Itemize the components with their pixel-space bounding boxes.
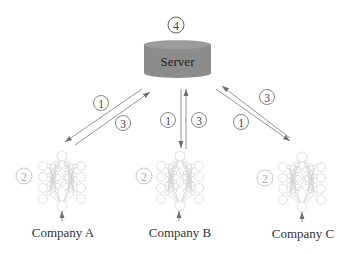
link-company-c: 3 1 xyxy=(216,86,290,141)
company-c: 2 Company C xyxy=(257,152,334,241)
neural-network-icon xyxy=(279,152,326,212)
step-badge-local-train-b: 2 xyxy=(136,168,152,184)
company-label: Company C xyxy=(272,226,334,241)
svg-text:1: 1 xyxy=(165,115,171,127)
server-database-icon: Server xyxy=(144,41,211,79)
step-badge-upload-a: 3 xyxy=(116,116,131,131)
svg-text:3: 3 xyxy=(264,92,270,104)
company-b: 2 Company B xyxy=(136,151,212,240)
neural-network-icon xyxy=(157,151,204,211)
step-badge-download-b: 1 xyxy=(161,113,176,128)
link-company-b: 1 3 xyxy=(161,89,207,149)
neural-network-icon xyxy=(39,151,86,211)
svg-text:2: 2 xyxy=(21,170,27,184)
company-label: Company B xyxy=(149,225,212,240)
svg-text:4: 4 xyxy=(173,19,179,33)
svg-text:2: 2 xyxy=(141,170,147,184)
server-label: Server xyxy=(161,54,196,69)
svg-text:1: 1 xyxy=(98,98,104,110)
step-badge-local-train-c: 2 xyxy=(257,170,273,186)
step-badge-local-train-a: 2 xyxy=(16,168,32,184)
federated-learning-diagram: 4 Server 1 3 1 3 xyxy=(0,0,350,254)
svg-text:3: 3 xyxy=(196,115,202,127)
step-badge-aggregate: 4 xyxy=(168,17,184,33)
svg-text:3: 3 xyxy=(120,118,126,130)
company-a: 2 Company A xyxy=(16,151,95,240)
step-badge-upload-b: 3 xyxy=(192,113,207,128)
link-company-a: 1 3 xyxy=(65,89,150,145)
svg-text:2: 2 xyxy=(262,172,268,186)
svg-text:1: 1 xyxy=(238,117,244,129)
step-badge-download-a: 1 xyxy=(94,96,109,111)
step-badge-download-c: 1 xyxy=(234,115,249,130)
company-label: Company A xyxy=(32,225,95,240)
step-badge-upload-c: 3 xyxy=(260,90,275,105)
